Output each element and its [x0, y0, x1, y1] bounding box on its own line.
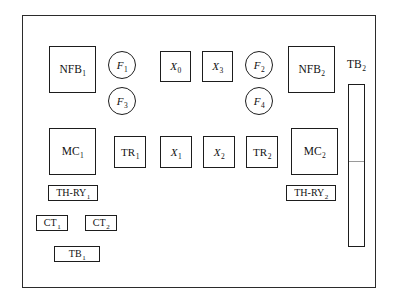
- component-nfb2: NFB2: [288, 46, 335, 93]
- component-f3-label: F3: [117, 96, 127, 107]
- component-tr2-label: TR2: [253, 147, 271, 158]
- tb2-label-subscript: 2: [362, 64, 366, 73]
- component-tr2: TR2: [246, 136, 278, 168]
- component-x2: X2: [203, 136, 235, 168]
- component-thry2: TH-RY2: [286, 185, 336, 201]
- component-thry1-label: TH-RY1: [56, 188, 90, 198]
- component-tb1-label: TB1: [69, 249, 85, 259]
- component-f2-label: F2: [254, 60, 264, 71]
- component-f3-subscript: 3: [124, 101, 128, 110]
- component-tb1: TB1: [54, 246, 100, 262]
- component-f4-label: F4: [254, 96, 264, 107]
- component-ct1-label: CT1: [44, 218, 60, 228]
- component-f3: F3: [108, 87, 136, 115]
- component-f4: F4: [245, 87, 273, 115]
- component-ct2-label: CT2: [93, 218, 109, 228]
- component-nfb1: NFB1: [49, 46, 96, 93]
- component-ct2-subscript: 2: [106, 223, 110, 231]
- component-x3-subscript: 3: [219, 66, 223, 75]
- component-x1-label: X1: [171, 147, 181, 158]
- component-ct2: CT2: [85, 215, 117, 231]
- component-thry2-subscript: 2: [325, 193, 329, 201]
- component-nfb2-label: NFB2: [298, 64, 324, 76]
- component-mc2: MC2: [291, 128, 338, 175]
- component-f1: F1: [108, 51, 136, 79]
- component-tr1: TR1: [114, 136, 146, 168]
- component-ct1-subscript: 1: [57, 223, 61, 231]
- component-tr2-subscript: 2: [268, 152, 272, 161]
- tb2-divider: [349, 161, 364, 162]
- component-x0: X0: [160, 51, 191, 82]
- component-mc1: MC1: [49, 128, 96, 175]
- component-x3-label: X3: [212, 61, 222, 72]
- component-x2-subscript: 2: [221, 152, 225, 161]
- component-f2-subscript: 2: [261, 65, 265, 74]
- tb2-label-text: TB2: [347, 59, 365, 71]
- component-tr1-label: TR1: [121, 147, 139, 158]
- component-x1: X1: [160, 136, 192, 168]
- component-f1-subscript: 1: [124, 65, 128, 74]
- component-nfb2-subscript: 2: [321, 69, 325, 78]
- component-x0-label: X0: [170, 61, 180, 72]
- component-nfb1-subscript: 1: [82, 69, 86, 78]
- component-x2-label: X2: [214, 147, 224, 158]
- component-ct1: CT1: [36, 215, 68, 231]
- tb2-terminal-strip: [348, 84, 365, 247]
- component-nfb1-label: NFB1: [59, 64, 85, 76]
- component-tb1-subscript: 1: [82, 254, 86, 262]
- component-thry1-subscript: 1: [87, 193, 91, 201]
- component-f1-label: F1: [117, 60, 127, 71]
- component-f2: F2: [245, 51, 273, 79]
- component-mc2-label: MC2: [304, 146, 326, 158]
- component-mc1-label: MC1: [62, 146, 84, 158]
- component-x0-subscript: 0: [177, 66, 181, 75]
- diagram-canvas: NFB1F1F3X0X3F2F4NFB2MC1TR1X1X2TR2MC2TH-R…: [0, 0, 398, 308]
- component-thry2-label: TH-RY2: [294, 188, 328, 198]
- component-mc1-subscript: 1: [80, 151, 84, 160]
- component-mc2-subscript: 2: [322, 151, 326, 160]
- component-x1-subscript: 1: [178, 152, 182, 161]
- component-thry1: TH-RY1: [48, 185, 98, 201]
- component-tr1-subscript: 1: [136, 152, 140, 161]
- component-x3: X3: [202, 51, 233, 82]
- tb2-label: TB2: [347, 59, 365, 71]
- component-f4-subscript: 4: [261, 101, 265, 110]
